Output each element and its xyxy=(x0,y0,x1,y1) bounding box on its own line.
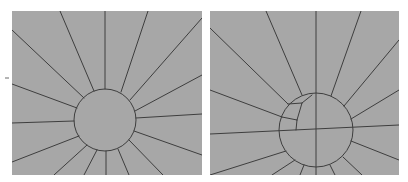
right-panel xyxy=(210,11,399,175)
left-panel-background xyxy=(12,11,202,175)
radial-pattern-figure xyxy=(0,0,408,182)
right-panel-background xyxy=(210,11,399,175)
left-panel xyxy=(12,11,202,175)
